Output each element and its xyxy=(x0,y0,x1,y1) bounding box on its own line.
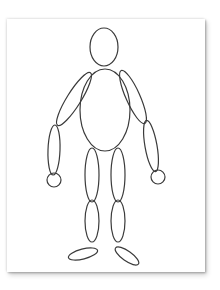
right-foot-shape xyxy=(113,244,142,268)
left-shin-shape xyxy=(85,200,99,242)
torso-shape xyxy=(80,69,130,151)
head-shape xyxy=(90,28,118,66)
left-forearm-shape xyxy=(47,125,61,175)
right-thigh-shape xyxy=(111,148,125,202)
right-hand-shape xyxy=(151,170,165,184)
right-upper-arm-shape xyxy=(115,68,151,127)
left-thigh-shape xyxy=(85,148,99,202)
right-forearm-shape xyxy=(141,119,162,172)
right-shin-shape xyxy=(111,200,125,242)
diagram-stage xyxy=(0,0,220,290)
mannequin-figure xyxy=(0,0,220,290)
left-foot-shape xyxy=(67,246,99,263)
